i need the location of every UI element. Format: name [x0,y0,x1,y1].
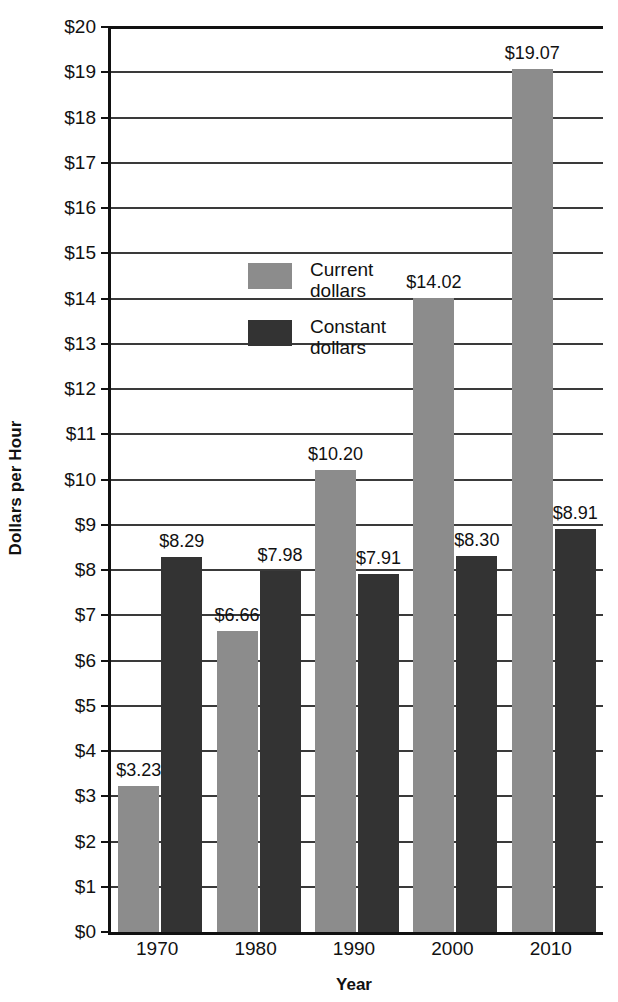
y-axis-tick-label: $9 [75,514,96,536]
x-axis-tick-label-1970: 1970 [136,938,178,960]
y-axis-tick-label: $16 [64,197,96,219]
bar-value-label-constant-2000: $8.30 [454,531,499,549]
y-axis-tick-labels: $0$1$2$3$4$5$6$7$8$9$10$11$12$13$14$15$1… [0,0,104,1002]
bar-value-label-constant-2010: $8.91 [553,504,598,522]
y-axis-tickmark [101,886,111,888]
legend-label-current-line2: dollars [310,280,373,301]
y-axis-tick-label: $2 [75,831,96,853]
legend: Current dollars Constant dollars [248,259,438,372]
y-axis-tick-label: $14 [64,288,96,310]
legend-label-constant-line1: Constant [310,316,386,337]
y-axis-tickmark [101,614,111,616]
bar-value-label-current-2010: $19.07 [505,44,560,62]
bars-layer: $3.23$8.29$6.66$7.98$10.20$7.91$14.02$8.… [111,27,603,932]
y-axis-tickmark [101,162,111,164]
y-axis-tick-label: $19 [64,61,96,83]
legend-item-constant-dollars[interactable]: Constant dollars [248,316,438,359]
y-axis-tick-label: $18 [64,107,96,129]
bar-constant-2010[interactable] [555,529,596,932]
bar-current-1990[interactable] [315,470,356,932]
y-axis-tick-label: $12 [64,378,96,400]
y-axis-tick-label: $10 [64,469,96,491]
y-axis-tickmark [101,207,111,209]
y-axis-tick-label: $15 [64,242,96,264]
y-axis-tick-label: $1 [75,876,96,898]
bar-value-label-current-1990: $10.20 [308,445,363,463]
y-axis-tickmark [101,660,111,662]
bar-group-2000: $14.02$8.30 [406,27,504,932]
bar-value-label-constant-1980: $7.98 [258,546,303,564]
bar-chart: Dollars per Hour $0$1$2$3$4$5$6$7$8$9$10… [0,0,618,1002]
y-axis-tick-label: $6 [75,650,96,672]
y-axis-tickmark [101,71,111,73]
bar-constant-1980[interactable] [260,571,301,932]
bar-group-1970: $3.23$8.29 [111,27,209,932]
y-axis-tick-label: $5 [75,695,96,717]
bar-group-1980: $6.66$7.98 [209,27,307,932]
x-axis-tick-label-2010: 2010 [530,938,572,960]
x-axis-tick-label-1980: 1980 [234,938,276,960]
bar-current-2010[interactable] [512,69,553,932]
legend-label-constant-line2: dollars [310,337,386,358]
bar-group-1990: $10.20$7.91 [308,27,406,932]
y-axis-tick-label: $8 [75,559,96,581]
y-axis-tickmark [101,705,111,707]
legend-label-current-line1: Current [310,259,373,280]
bar-value-label-constant-1990: $7.91 [356,549,401,567]
plot-inner: $3.23$8.29$6.66$7.98$10.20$7.91$14.02$8.… [111,27,603,932]
y-axis-tick-label: $7 [75,604,96,626]
y-axis-tickmark [101,795,111,797]
plot-area: $3.23$8.29$6.66$7.98$10.20$7.91$14.02$8.… [108,27,603,935]
x-axis-tick-label-2000: 2000 [431,938,473,960]
x-axis-tick-labels: 19701980199020002010 [108,938,600,968]
legend-swatch-current-dollars [248,263,292,289]
y-axis-tickmark [101,117,111,119]
y-axis-tickmark [101,524,111,526]
bar-current-1970[interactable] [118,786,159,932]
y-axis-tickmark [101,841,111,843]
bar-constant-1970[interactable] [161,557,202,932]
bar-current-2000[interactable] [413,298,454,932]
y-axis-tick-label: $0 [75,921,96,943]
legend-item-current-dollars[interactable]: Current dollars [248,259,438,302]
y-axis-tickmark [101,26,111,28]
y-axis-tick-label: $20 [64,16,96,38]
y-axis-tick-label: $3 [75,785,96,807]
y-axis-tick-label: $13 [64,333,96,355]
legend-swatch-constant-dollars [248,320,292,346]
y-axis-tickmark [101,479,111,481]
x-axis-tick-label-1990: 1990 [333,938,375,960]
legend-label-current-dollars: Current dollars [310,259,373,302]
bar-group-2010: $19.07$8.91 [505,27,603,932]
bar-constant-1990[interactable] [358,574,399,932]
legend-label-constant-dollars: Constant dollars [310,316,386,359]
y-axis-tickmark [101,433,111,435]
bar-value-label-current-1970: $3.23 [116,761,161,779]
bar-current-1980[interactable] [217,631,258,932]
bar-value-label-constant-1970: $8.29 [159,532,204,550]
y-axis-tick-label: $4 [75,740,96,762]
y-axis-tickmark [101,931,111,933]
bar-value-label-current-1980: $6.66 [215,606,260,624]
y-axis-tick-label: $11 [66,423,96,445]
x-axis-title: Year [108,975,600,995]
bar-constant-2000[interactable] [456,556,497,932]
y-axis-tickmark [101,252,111,254]
y-axis-tickmark [101,388,111,390]
y-axis-tickmark [101,750,111,752]
y-axis-tickmark [101,343,111,345]
y-axis-tick-label: $17 [64,152,96,174]
y-axis-tickmark [101,569,111,571]
y-axis-tickmark [101,298,111,300]
